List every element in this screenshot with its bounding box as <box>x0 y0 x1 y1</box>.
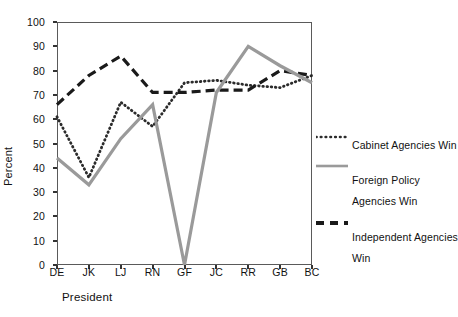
x-axis-title: President <box>62 291 112 303</box>
y-axis-tick-label: 80 <box>33 65 45 76</box>
y-axis-tick-mark <box>53 118 57 120</box>
legend-label: Independent Agencies <box>352 230 458 245</box>
y-axis-tick-mark <box>53 264 57 266</box>
y-axis-tick-label: 20 <box>33 211 45 222</box>
y-axis-tick-label: 50 <box>33 138 45 149</box>
y-axis-tick-mark <box>53 70 57 72</box>
y-axis-tick-mark <box>53 215 57 217</box>
legend-label: Agencies Win <box>352 194 417 209</box>
x-axis-tick-label: GB <box>272 267 288 278</box>
y-axis-tick-label: 0 <box>39 260 45 271</box>
y-axis-tick-label: 70 <box>33 90 45 101</box>
legend-swatch-solid-icon <box>316 155 348 161</box>
x-axis-tick-label: BC <box>305 267 320 278</box>
y-axis-tick-mark <box>53 143 57 145</box>
y-axis-tick-mark <box>53 167 57 169</box>
legend-label: Cabinet Agencies Win <box>352 138 457 153</box>
legend-swatch-dotted-icon <box>316 126 348 132</box>
x-axis-tick-label: DE <box>50 267 65 278</box>
y-axis-tick-label: 100 <box>27 17 45 28</box>
y-axis-tick-mark <box>53 240 57 242</box>
y-axis-tick-label: 60 <box>33 114 45 125</box>
y-axis-tick-mark <box>53 94 57 96</box>
y-axis-tick-label: 90 <box>33 41 45 52</box>
y-axis-tick-mark <box>53 191 57 193</box>
legend-swatch-dashed-icon <box>316 212 348 218</box>
x-axis-tick-label: JK <box>83 267 96 278</box>
x-axis-tick-label: RN <box>145 267 161 278</box>
x-axis-tick-label: JC <box>210 267 223 278</box>
data-series-layer <box>57 22 312 265</box>
legend-label: Foreign Policy <box>352 173 420 188</box>
y-axis-labels: 0102030405060708090100 <box>0 22 52 265</box>
legend-label: Win <box>352 251 370 266</box>
x-axis-labels: DEJKLJRNGFJCRRGBBC <box>57 267 312 283</box>
series-line-solid <box>57 46 312 265</box>
y-axis-tick-label: 30 <box>33 187 45 198</box>
x-axis-tick-label: LJ <box>115 267 127 278</box>
y-axis-tick-label: 40 <box>33 163 45 174</box>
y-axis-tick-label: 10 <box>33 235 45 246</box>
x-axis-tick-label: GF <box>177 267 192 278</box>
y-axis-tick-mark <box>53 21 57 23</box>
y-axis-tick-mark <box>53 45 57 47</box>
x-axis-tick-label: RR <box>240 267 256 278</box>
series-line-dotted <box>57 75 312 177</box>
